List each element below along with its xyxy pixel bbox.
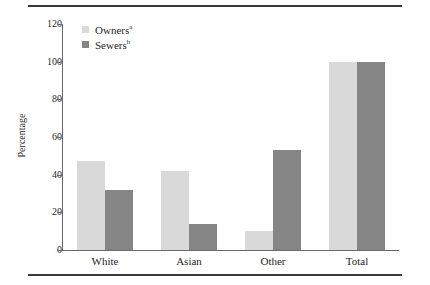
legend-item-owners: Ownersa [82,22,132,36]
y-axis-title: Percentage [16,91,27,181]
plot-area: 020406080100120 Percentage WhiteAsianOth… [0,0,430,285]
y-tick-mark [57,137,62,138]
bar-white-sewers [105,190,133,250]
y-tick-0: 0 [28,250,62,251]
bar-total-sewers [357,62,385,250]
legend-swatch-sewers-icon [82,41,89,48]
y-tick-100: 100 [28,62,62,63]
x-tick-label-white: White [63,255,147,267]
bar-other-sewers [273,150,301,250]
y-tick-mark [57,250,62,251]
bar-total-owners [329,62,357,250]
y-tick-120: 120 [28,24,62,25]
y-tick-mark [57,24,62,25]
x-tick-label-asian: Asian [147,255,231,267]
y-tick-mark [57,175,62,176]
legend-label-owners: Ownersa [95,23,132,36]
legend-label-sewers: Sewersb [95,38,130,51]
legend-swatch-owners-icon [82,26,89,33]
x-tick-label-other: Other [231,255,315,267]
y-tick-20: 20 [28,212,62,213]
legend: Ownersa Sewersb [82,22,132,52]
x-tick-label-total: Total [315,255,399,267]
bar-other-owners [245,231,273,250]
bar-white-owners [77,161,105,250]
bar-asian-sewers [189,224,217,250]
y-tick-mark [57,212,62,213]
y-tick-80: 80 [28,99,62,100]
figure-bar-chart: 020406080100120 Percentage WhiteAsianOth… [0,0,430,285]
y-tick-mark [57,99,62,100]
x-axis-line [62,250,399,251]
y-tick-40: 40 [28,175,62,176]
legend-item-sewers: Sewersb [82,37,132,51]
bar-asian-owners [161,171,189,250]
y-axis-line [62,24,63,251]
y-tick-mark [57,62,62,63]
y-tick-60: 60 [28,137,62,138]
